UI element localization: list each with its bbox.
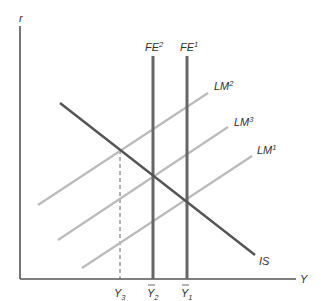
fe1-label: FE1	[180, 40, 198, 53]
lm1-curve	[82, 156, 252, 268]
is-lm-fe-diagram: r Y FE2 FE1 LM2 LM3 LM1 IS Y3 Y2 Y1	[0, 0, 321, 301]
lm2-curve	[38, 93, 208, 205]
x-axis-label: Y	[300, 273, 308, 285]
lm3-curve	[58, 127, 228, 240]
lm2-label: LM2	[214, 79, 234, 92]
is-label: IS	[259, 255, 270, 267]
fe2-label: FE2	[145, 40, 164, 53]
y2-tick-label: Y2	[147, 287, 159, 301]
y1-tick-label: Y1	[181, 287, 193, 301]
lm1-label: LM1	[257, 143, 276, 156]
y-axis-label: r	[19, 12, 24, 24]
lm3-label: LM3	[234, 115, 254, 128]
y3-tick-label: Y3	[114, 287, 126, 301]
